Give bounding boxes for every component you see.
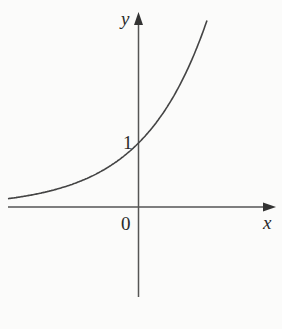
y-axis-arrow-icon (134, 12, 143, 25)
x-axis-arrow-icon (263, 203, 276, 212)
plot-area (0, 0, 282, 329)
origin-label: 0 (121, 214, 131, 233)
x-axis-label: x (263, 213, 271, 232)
exponential-curve (8, 20, 207, 198)
y-axis-label: y (121, 9, 129, 28)
chart-figure: y x 1 0 (0, 0, 282, 329)
y-intercept-label: 1 (123, 133, 133, 152)
